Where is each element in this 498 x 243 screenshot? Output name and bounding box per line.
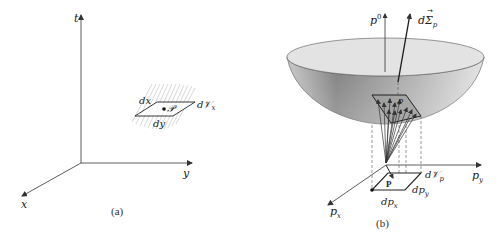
figure: t y x dx 𝒫 d𝒱x dy (a) xyxy=(0,0,498,243)
dy-label: dy xyxy=(153,118,165,129)
dpx-label: dpx xyxy=(381,196,398,210)
dx-label: dx xyxy=(139,95,151,106)
dSigma-label: dΣp xyxy=(418,14,438,29)
panel-b: p0 dΣp → p xyxy=(287,7,484,230)
dVp-label: d𝒱p xyxy=(425,169,444,183)
py-axis-label: py xyxy=(472,169,484,184)
point-P-b xyxy=(370,188,374,192)
caption-b: (b) xyxy=(376,217,389,230)
dSigma-vector-arrow: → xyxy=(427,7,433,15)
vector-p-label: p xyxy=(398,96,403,105)
dpy-label: dpy xyxy=(412,184,430,198)
t-axis-label: t xyxy=(74,12,79,25)
panel-a: t y x dx 𝒫 d𝒱x dy (a) xyxy=(21,12,215,218)
x-axis-label: x xyxy=(21,198,28,211)
paraboloid-rim xyxy=(287,38,484,76)
x-axis xyxy=(22,163,81,196)
caption-a: (a) xyxy=(111,205,124,218)
px-axis-label: px xyxy=(330,205,341,220)
p0-axis-label: p0 xyxy=(370,13,382,27)
point-P-b-label: P xyxy=(386,179,392,189)
y-axis-label: y xyxy=(182,167,190,180)
dVx-label: d𝒱x xyxy=(197,99,215,112)
point-P xyxy=(162,107,166,111)
